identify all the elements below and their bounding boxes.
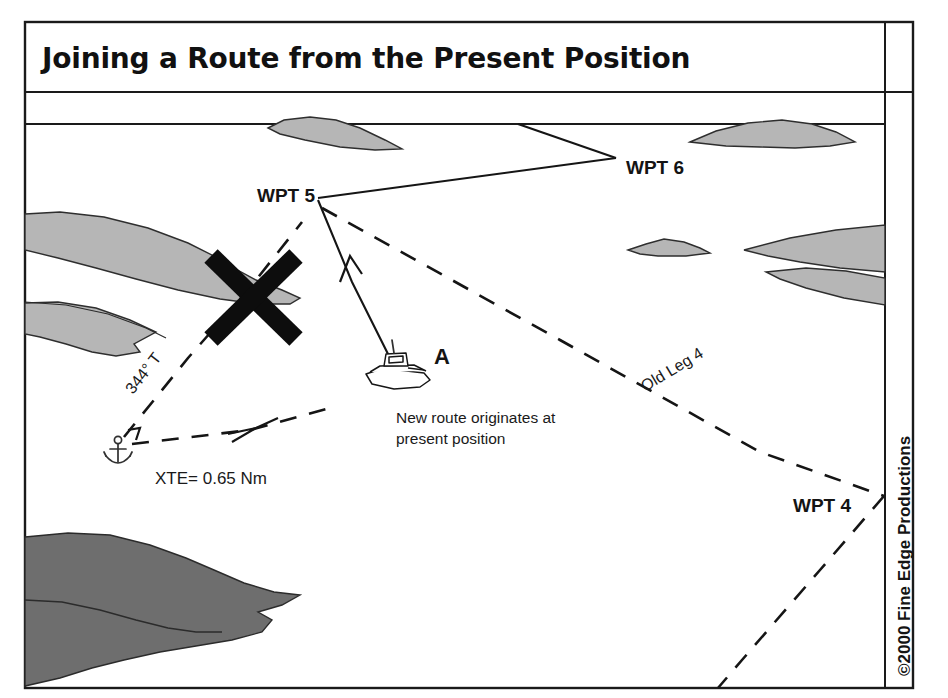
xte-label: XTE= 0.65 Nm	[155, 469, 267, 488]
bearing-label: 344° T	[122, 349, 164, 397]
caption-line-1: New route originates at	[396, 409, 556, 426]
new-route-leg-a	[318, 200, 392, 362]
anchor-icon	[104, 428, 140, 463]
waypoint-label-wpt6: WPT 6	[626, 157, 684, 178]
old-leg-label: Old Leg 4	[638, 344, 706, 394]
old-route-leg-anchor	[132, 408, 330, 444]
navigation-diagram: Joining a Route from the Present Positio…	[0, 0, 948, 698]
land-bottom-left	[25, 533, 300, 686]
caption-line-2: present position	[396, 430, 505, 447]
new-route-group	[318, 124, 616, 362]
present-position-marker: A	[434, 344, 450, 369]
old-route-leg-south	[718, 496, 884, 688]
boat-icon	[366, 340, 430, 389]
waypoint-label-wpt5: WPT 5	[257, 185, 315, 206]
new-route-leg-6-north	[518, 124, 616, 158]
land-top-island	[268, 117, 402, 150]
copyright-text: ©2000 Fine Edge Productions	[895, 436, 914, 676]
page-title: Joining a Route from the Present Positio…	[40, 42, 690, 75]
old-route-arrowhead	[228, 418, 278, 442]
land-right-upper-prong	[744, 225, 885, 272]
land-right-islet	[628, 239, 710, 256]
land-right-lower-prong	[766, 268, 885, 305]
new-route-leg-5-6	[318, 158, 616, 198]
waypoint-label-wpt4: WPT 4	[793, 495, 851, 516]
